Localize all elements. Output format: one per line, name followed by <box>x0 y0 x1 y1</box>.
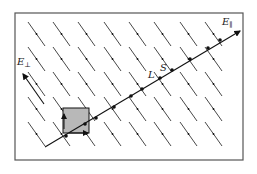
field-line-marker <box>137 108 139 110</box>
field-line-marker <box>86 83 88 85</box>
field-line-marker <box>112 133 114 135</box>
e-perp-label: E⊥ <box>17 57 31 69</box>
field-line-marker <box>137 33 139 35</box>
field-line-marker <box>213 83 215 85</box>
field-line-marker <box>61 58 63 60</box>
field-line-marker <box>188 33 190 35</box>
e-perp-arrow <box>23 74 44 104</box>
field-line-marker <box>61 133 63 135</box>
axis-point <box>188 57 192 61</box>
axis-point <box>83 122 87 126</box>
field-line-marker <box>213 108 215 110</box>
field-line-marker <box>36 108 38 110</box>
field-line-marker <box>36 58 38 60</box>
field-line-marker <box>61 83 63 85</box>
field-line-marker <box>36 33 38 35</box>
field-line-marker <box>188 83 190 85</box>
field-line-marker <box>162 133 164 135</box>
field-line-marker <box>36 83 38 85</box>
field-line-marker <box>86 33 88 35</box>
axis-point <box>158 76 162 80</box>
field-line-marker <box>137 83 139 85</box>
field-line-marker <box>162 33 164 35</box>
s-label: S <box>160 63 167 73</box>
field-line-marker <box>188 108 190 110</box>
axis-point <box>140 87 144 91</box>
axis-point <box>94 116 98 120</box>
field-diagram <box>0 0 257 174</box>
field-line-marker <box>112 83 114 85</box>
field-line-marker <box>137 133 139 135</box>
field-line-marker <box>162 58 164 60</box>
e-parallel-label: E∥ <box>222 17 233 29</box>
axis-point <box>170 68 174 72</box>
field-line-marker <box>162 83 164 85</box>
axis-point <box>112 105 116 109</box>
field-line-marker <box>162 108 164 110</box>
field-line-marker <box>213 133 215 135</box>
field-line-marker <box>213 58 215 60</box>
field-line-marker <box>112 33 114 35</box>
field-line-marker <box>86 58 88 60</box>
frame <box>15 13 243 160</box>
axis-point <box>64 134 68 138</box>
axis-point <box>129 94 133 98</box>
field-line-marker <box>188 133 190 135</box>
field-line-marker <box>213 33 215 35</box>
axis-point <box>206 46 210 50</box>
field-line-marker <box>137 58 139 60</box>
l-label: L <box>148 70 155 80</box>
field-line-marker <box>61 108 63 110</box>
field-line-marker <box>112 58 114 60</box>
shaded-square <box>63 108 89 133</box>
field-line-marker <box>61 33 63 35</box>
field-line-marker <box>36 133 38 135</box>
axis-point <box>218 38 222 42</box>
